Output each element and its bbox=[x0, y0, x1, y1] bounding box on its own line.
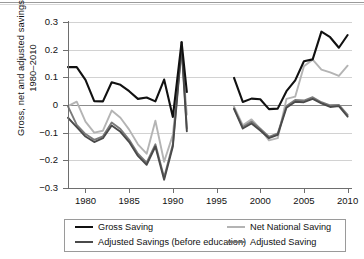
legend-label: Adjusted Savings (before education) bbox=[98, 237, 246, 247]
x-tick bbox=[129, 188, 130, 193]
y-tick bbox=[63, 50, 68, 51]
x-tick bbox=[348, 188, 349, 193]
y-tick-label: 0.2 bbox=[18, 44, 58, 55]
legend-swatch-icon bbox=[227, 241, 245, 243]
x-tick bbox=[217, 188, 218, 193]
series-line bbox=[234, 97, 348, 137]
y-tick-label: −0.2 bbox=[18, 154, 58, 165]
top-rule bbox=[0, 2, 364, 3]
legend: Gross Saving Net National Saving Adjuste… bbox=[64, 219, 346, 252]
legend-item-gross-saving[interactable]: Gross Saving bbox=[75, 222, 153, 232]
legend-row-2: Adjusted Savings (before education) Adju… bbox=[65, 237, 347, 252]
y-tick-label: −0.1 bbox=[18, 127, 58, 138]
legend-swatch-icon bbox=[227, 226, 245, 228]
legend-item-net-national-saving[interactable]: Net National Saving bbox=[227, 222, 331, 232]
legend-label: Adjusted Saving bbox=[250, 237, 316, 247]
x-axis-line bbox=[68, 188, 352, 189]
x-tick-label: 1985 bbox=[109, 195, 149, 206]
legend-label: Net National Saving bbox=[250, 222, 331, 232]
x-tick-label: 2000 bbox=[240, 195, 280, 206]
x-tick-label: 2010 bbox=[328, 195, 364, 206]
legend-row-1: Gross Saving Net National Saving bbox=[65, 222, 347, 237]
legend-item-adjusted-savings-before-education[interactable]: Adjusted Savings (before education) bbox=[75, 237, 246, 247]
y-tick bbox=[63, 188, 68, 189]
y-tick-label: 0.1 bbox=[18, 71, 58, 82]
chart-figure: Gross, net and adjusted savings 1980–201… bbox=[0, 0, 364, 259]
legend-swatch-icon bbox=[75, 226, 93, 229]
x-tick-label: 2005 bbox=[284, 195, 324, 206]
y-tick-label: 0.3 bbox=[18, 16, 58, 27]
plot-area bbox=[68, 22, 352, 188]
x-tick bbox=[173, 188, 174, 193]
x-tick bbox=[260, 188, 261, 193]
y-tick-label: −0.3 bbox=[18, 182, 58, 193]
legend-swatch-icon bbox=[75, 241, 93, 243]
y-tick bbox=[63, 105, 68, 106]
y-tick bbox=[63, 22, 68, 23]
y-tick-label: 0 bbox=[18, 99, 58, 110]
y-tick bbox=[63, 160, 68, 161]
series-line bbox=[234, 60, 348, 141]
legend-label: Gross Saving bbox=[98, 222, 153, 232]
x-tick bbox=[304, 188, 305, 193]
x-tick-label: 1995 bbox=[197, 195, 237, 206]
y-axis-line bbox=[68, 21, 69, 189]
y-tick bbox=[63, 77, 68, 78]
x-tick-label: 1990 bbox=[153, 195, 193, 206]
series-line bbox=[68, 42, 182, 117]
series-line bbox=[68, 51, 182, 162]
y-tick bbox=[63, 133, 68, 134]
x-tick-label: 1980 bbox=[65, 195, 105, 206]
x-tick bbox=[85, 188, 86, 193]
series-layer bbox=[68, 22, 352, 188]
top-rule-secondary bbox=[0, 4, 364, 5]
legend-item-adjusted-saving[interactable]: Adjusted Saving bbox=[227, 237, 316, 247]
